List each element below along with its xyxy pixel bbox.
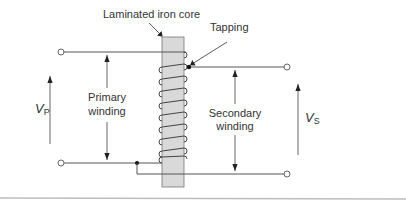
primary-winding-label-1: Primary: [88, 91, 126, 103]
bottom-rule: [0, 198, 406, 199]
vs-label: VS: [305, 110, 320, 126]
secondary-winding-label-1: Secondary: [209, 107, 262, 119]
core-leader-arrow: [149, 23, 161, 35]
secondary-bottom-terminal: [284, 171, 290, 177]
primary-top-terminal: [58, 49, 64, 55]
tapping-label: Tapping: [210, 21, 249, 33]
primary-winding-label-2: winding: [87, 105, 125, 117]
primary-bottom-terminal: [58, 160, 64, 166]
tapping-leader-arrow: [192, 42, 227, 64]
secondary-top-terminal: [284, 64, 290, 70]
core-label: Laminated iron core: [103, 8, 200, 20]
tapping-dot: [187, 65, 191, 69]
vp-label: VP: [35, 101, 50, 117]
common-return-wire: [137, 163, 284, 174]
secondary-winding-label-2: winding: [215, 120, 253, 132]
autotransformer-diagram: Laminated iron core Tapping VP Primary w…: [0, 0, 406, 202]
